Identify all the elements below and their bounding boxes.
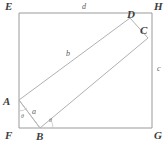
- vertex-label-c: C: [140, 25, 147, 36]
- inner-rectangle-abcd: [19, 18, 148, 128]
- vertex-label-a: A: [3, 96, 10, 107]
- vertex-label-h: H: [154, 1, 163, 12]
- side-label-d: d: [82, 3, 86, 11]
- figure-canvas: [0, 0, 168, 147]
- vertex-label-f: F: [5, 130, 12, 141]
- vertex-label-e: E: [5, 1, 12, 12]
- angle-label-theta-at-a: θ: [21, 113, 24, 119]
- outer-rectangle-efgh: [19, 13, 152, 128]
- vertex-label-b: B: [36, 131, 43, 142]
- geometry-figure: E H G F A B C D d c b a θ θ: [0, 0, 168, 147]
- side-label-b: b: [66, 50, 70, 58]
- vertex-label-g: G: [154, 130, 162, 141]
- vertex-label-d: D: [127, 9, 135, 20]
- side-label-a: a: [32, 108, 36, 116]
- angle-label-theta-at-b: θ: [49, 117, 52, 123]
- side-label-c: c: [157, 65, 161, 73]
